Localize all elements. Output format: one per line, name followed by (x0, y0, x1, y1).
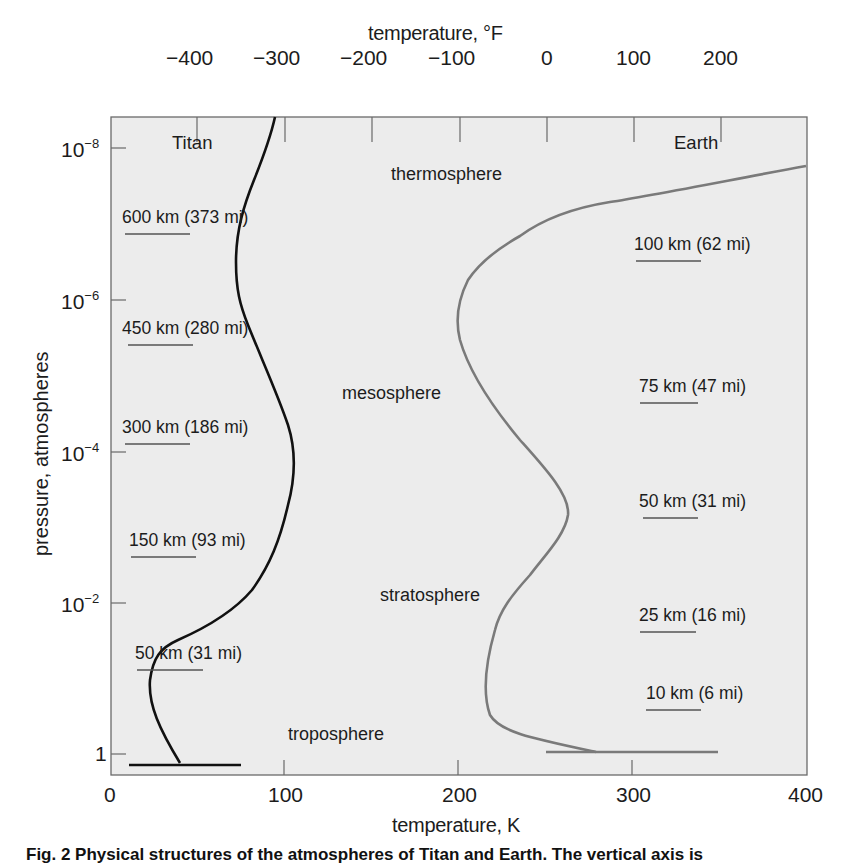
figure-caption: Fig. 2 Physical structures of the atmosp… (26, 845, 703, 865)
stratosphere-label: stratosphere (380, 585, 480, 606)
bottom-tick-label: 0 (104, 783, 116, 807)
bottom-tick-label: 400 (788, 783, 823, 807)
titan-altitude-label: 450 km (280 mi) (122, 318, 248, 339)
earth-altitude-label: 50 km (31 mi) (639, 491, 746, 512)
earth-altitude-label: 10 km (6 mi) (646, 683, 743, 704)
earth-altitude-label: 25 km (16 mi) (639, 605, 746, 626)
earth-label: Earth (674, 132, 718, 154)
earth-altitude-label: 75 km (47 mi) (639, 376, 746, 397)
bottom-axis-title: temperature, K (392, 814, 520, 837)
y-tick-label: 10−4 (61, 442, 99, 466)
titan-altitude-label: 150 km (93 mi) (129, 530, 246, 551)
thermosphere-label: thermosphere (391, 164, 502, 185)
earth-altitude-label: 100 km (62 mi) (634, 234, 751, 255)
titan-altitude-label: 600 km (373 mi) (122, 207, 248, 228)
bottom-tick-label: 300 (616, 783, 651, 807)
bottom-tick-label: 200 (442, 783, 477, 807)
y-tick-label: 10−6 (61, 290, 99, 314)
mesosphere-label: mesosphere (342, 383, 441, 404)
titan-label: Titan (172, 132, 212, 154)
y-axis-title: pressure, atmospheres (30, 351, 53, 556)
bottom-tick-label: 100 (268, 783, 303, 807)
y-tick-label: 1 (95, 742, 107, 766)
troposphere-label: troposphere (288, 724, 384, 745)
y-tick-label: 10−8 (61, 138, 99, 162)
titan-altitude-label: 300 km (186 mi) (122, 417, 248, 438)
titan-altitude-label: 50 km (31 mi) (135, 643, 242, 664)
y-tick-label: 10−2 (61, 593, 99, 617)
